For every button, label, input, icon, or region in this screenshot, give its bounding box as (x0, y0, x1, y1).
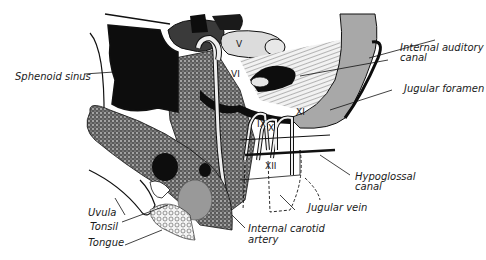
anatomy-illustration (0, 0, 486, 260)
label-internal-auditory-canal-line2: canal (400, 53, 427, 63)
label-jugular-foramen: Jugular foramen (404, 84, 484, 94)
numeral-vi: VI (231, 70, 240, 79)
numeral-ix: IX (257, 120, 266, 129)
numeral-xii: XII (265, 162, 276, 171)
label-sphenoid-sinus: Sphenoid sinus (15, 72, 91, 82)
label-tongue: Tongue (88, 238, 124, 248)
label-tonsil: Tonsil (90, 222, 118, 232)
label-internal-carotid-artery-line2: artery (248, 235, 278, 245)
numeral-xi: XI (296, 108, 305, 117)
label-internal-carotid-artery-line1: Internal carotid (248, 224, 325, 234)
label-jugular-vein: Jugular vein (308, 203, 367, 213)
numeral-x: X (268, 124, 274, 133)
label-hypoglossal-canal-line2: canal (355, 182, 382, 192)
numeral-v: V (236, 40, 242, 49)
anatomy-figure: Sphenoid sinus Internal auditory canal J… (0, 0, 486, 260)
label-uvula: Uvula (88, 208, 116, 218)
